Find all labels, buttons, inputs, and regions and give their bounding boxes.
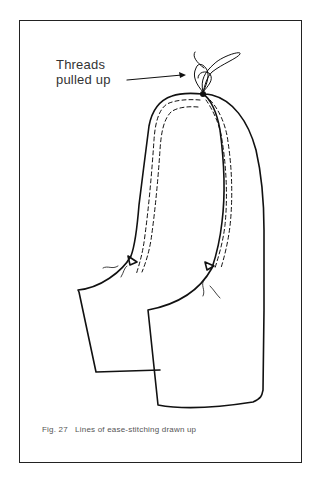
sleeve-illustration bbox=[0, 0, 315, 479]
sleeve-front-edge bbox=[148, 94, 264, 408]
sleeve-back-edge bbox=[78, 93, 203, 372]
notch-icon bbox=[128, 256, 137, 265]
notch-icon-2 bbox=[205, 262, 214, 270]
arrow-icon bbox=[127, 72, 186, 80]
thread-loops-icon bbox=[194, 52, 240, 92]
figure-caption: Fig. 27 Lines of ease-stitching drawn up bbox=[42, 425, 196, 434]
